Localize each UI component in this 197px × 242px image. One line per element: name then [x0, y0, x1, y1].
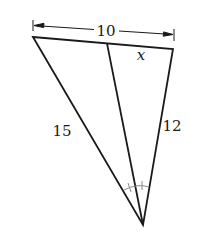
- arrow-right-icon: [163, 32, 173, 36]
- angle-bisector: [107, 43, 143, 225]
- arrow-left-icon: [34, 23, 44, 27]
- label-top-side: 10: [96, 22, 115, 40]
- label-right-side: 12: [162, 117, 181, 135]
- label-left-side: 15: [52, 122, 71, 140]
- label-x: x: [137, 46, 146, 64]
- triangle-diagram: 10 x 15 12: [0, 0, 197, 242]
